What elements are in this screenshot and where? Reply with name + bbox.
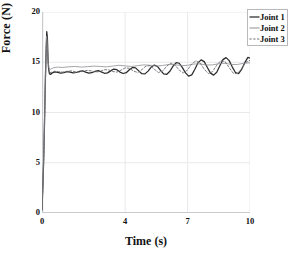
x-tick-label: 10 xyxy=(246,216,255,226)
y-tick-label: 15 xyxy=(20,56,40,66)
legend-line-sample-icon xyxy=(249,23,260,33)
plot-area xyxy=(42,12,250,213)
y-tick-label: 10 xyxy=(20,107,40,117)
x-tick-label: 7 xyxy=(185,216,189,226)
y-tick-label: 5 xyxy=(20,157,40,167)
legend-line-sample-icon xyxy=(249,12,260,22)
grid-lines xyxy=(42,12,250,213)
legend-item-label: Joint 3 xyxy=(260,34,285,44)
data-series-layer xyxy=(42,32,250,210)
plot-canvas xyxy=(42,12,250,213)
series-line-1 xyxy=(42,32,250,210)
x-axis-title: Time (s) xyxy=(42,234,250,249)
y-axis-title: Force (N) xyxy=(0,0,14,78)
x-tick-label: 0 xyxy=(40,216,44,226)
y-tick-label: 20 xyxy=(20,6,40,16)
legend-item-2: Joint 2 xyxy=(249,22,285,33)
legend-line-sample-icon xyxy=(249,34,260,44)
x-tick-label: 4 xyxy=(123,216,127,226)
legend-item-label: Joint 1 xyxy=(260,12,285,22)
chart-legend: Joint 1Joint 2Joint 3 xyxy=(247,9,288,46)
legend-item-3: Joint 3 xyxy=(249,33,285,44)
x-axis-tick-labels: 04710 xyxy=(0,216,305,230)
legend-item-1: Joint 1 xyxy=(249,11,285,22)
legend-item-label: Joint 2 xyxy=(260,23,285,33)
force-vs-time-chart: Force (N) 05101520 04710 Time (s) Joint … xyxy=(0,0,305,257)
